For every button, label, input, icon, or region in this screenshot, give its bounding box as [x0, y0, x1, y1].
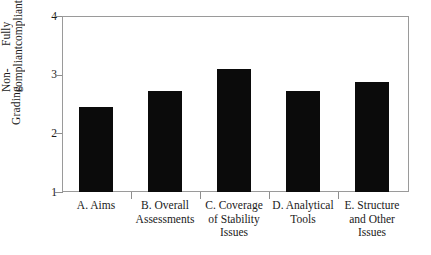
y-axis-bottom-caption-line2: compliant: [12, 46, 24, 92]
bar-c-coverage-of-stability-issues: [217, 69, 251, 192]
bar-chart: Grading Fully compliant Non- compliant 4…: [0, 0, 431, 255]
y-tick-mark-1: [55, 192, 63, 193]
y-axis-top-caption-line1: Fully: [0, 0, 12, 46]
x-label-line-3: Issues: [191, 226, 277, 240]
y-axis-bottom-caption-line1: Non-: [0, 46, 12, 92]
x-label-line-3: Issues: [329, 226, 415, 240]
y-tick-label-3: 3: [43, 68, 57, 80]
bar-b-overall-assessments: [148, 91, 182, 192]
x-label-line-2: and Other: [329, 213, 415, 227]
y-axis-top-caption-line2: compliant: [12, 0, 24, 46]
x-tick-mark-4: [338, 192, 339, 199]
x-tick-mark-2: [200, 192, 201, 199]
x-label-line-1: E. Structure: [329, 199, 415, 213]
x-tick-mark-3: [269, 192, 270, 199]
x-label-e-structure-and-other-issues: E. Structure and Other Issues: [329, 199, 415, 240]
bar-a-aims: [79, 107, 113, 192]
bar-d-analytical-tools: [286, 91, 320, 192]
x-tick-mark-1: [131, 192, 132, 199]
bar-e-structure-and-other-issues: [355, 82, 389, 192]
